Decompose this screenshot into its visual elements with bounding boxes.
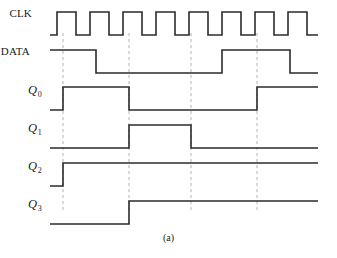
signal-label-subscript: 1 (37, 128, 42, 137)
clock-edge-marker-group (63, 33, 257, 212)
waveform-q1 (50, 125, 318, 148)
signal-label-q0: Q0 (0, 83, 42, 99)
signal-label-text: Q (28, 159, 37, 173)
signal-label-q2: Q2 (0, 159, 42, 175)
waveform-group (50, 12, 318, 224)
waveform-data (50, 50, 318, 73)
signal-label-text: Q (28, 121, 37, 135)
signal-label-q1: Q1 (0, 121, 42, 137)
figure-caption: (a) (0, 232, 337, 243)
timing-diagram-figure: CLKDATAQ0Q1Q2Q3 (a) (0, 0, 337, 258)
waveform-q2 (50, 163, 318, 186)
signal-label-q3: Q3 (0, 197, 42, 213)
signal-label-text: CLK (9, 7, 32, 19)
signal-label-data: DATA (0, 45, 30, 57)
waveform-q0 (50, 87, 318, 110)
signal-label-text: Q (28, 197, 37, 211)
signal-label-subscript: 3 (37, 204, 42, 213)
signal-label-subscript: 0 (37, 90, 42, 99)
timing-waveform-canvas (0, 0, 337, 258)
waveform-clk (50, 12, 318, 35)
signal-label-text: Q (28, 83, 37, 97)
signal-label-subscript: 2 (37, 166, 42, 175)
waveform-q3 (50, 201, 318, 224)
signal-label-clk: CLK (0, 7, 32, 19)
signal-label-text: DATA (1, 45, 30, 57)
